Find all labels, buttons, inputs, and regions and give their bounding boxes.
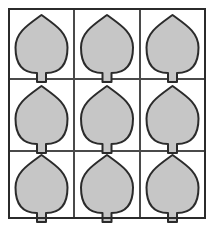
- figure-container: [0, 0, 214, 229]
- leaf-layer: [16, 15, 199, 222]
- leaf-grid-figure: [0, 0, 214, 229]
